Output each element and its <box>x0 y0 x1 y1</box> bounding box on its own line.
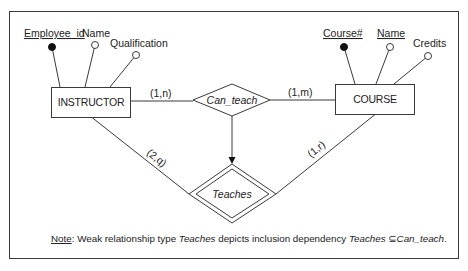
cardinality-instructor-can-teach: (1,n) <box>150 87 172 99</box>
diagram-note: Note: Weak relationship type Teaches dep… <box>51 233 447 244</box>
link-course-teaches <box>276 115 375 195</box>
attribute-instructor-name: Name <box>82 27 110 39</box>
note-text-1: Weak relationship type <box>74 233 178 244</box>
note-term-can-teach: Can_teach <box>397 233 444 244</box>
attribute-credits: Credits <box>413 37 446 49</box>
subset-symbol: ⊆ <box>386 233 397 244</box>
er-diagram: Employee_id Name Qualification Course# N… <box>0 0 468 271</box>
attribute-dot-icon <box>425 53 432 60</box>
attr-line-course-number <box>344 47 355 84</box>
cardinality-course-teaches: (1,r) <box>305 138 328 159</box>
attr-line-employee-id <box>52 47 60 87</box>
arrow-head-icon <box>229 157 236 164</box>
note-term-teaches-2: Teaches <box>349 233 386 244</box>
attribute-course-number: Course# <box>323 27 363 39</box>
attr-line-instructor-name <box>85 45 95 87</box>
entity-course-label: COURSE <box>353 93 397 105</box>
key-attribute-dot-icon <box>49 44 56 51</box>
note-end: . <box>444 233 447 244</box>
attr-line-credits <box>394 56 428 84</box>
attribute-course-name: Name <box>377 27 405 39</box>
attribute-qualification: Qualification <box>110 37 168 49</box>
attribute-dot-icon <box>133 52 140 59</box>
attribute-dot-icon <box>387 44 394 51</box>
attribute-employee-id: Employee_id <box>24 27 85 39</box>
note-label: Note <box>51 233 72 244</box>
attribute-dot-icon <box>92 42 99 49</box>
attr-line-course-name <box>376 47 390 84</box>
cardinality-instructor-teaches: (2,q) <box>145 146 169 169</box>
entity-instructor-label: INSTRUCTOR <box>58 96 125 108</box>
link-instructor-teaches <box>92 118 189 195</box>
relationship-teaches-label: Teaches <box>212 188 252 200</box>
relationship-can-teach-label: Can_teach <box>207 94 258 106</box>
cardinality-course-can-teach: (1,m) <box>288 86 313 98</box>
note-term-teaches: Teaches <box>179 233 216 244</box>
attr-line-qualification <box>110 55 136 87</box>
note-text-2: depicts inclusion dependency <box>216 233 349 244</box>
key-attribute-dot-icon <box>341 44 348 51</box>
